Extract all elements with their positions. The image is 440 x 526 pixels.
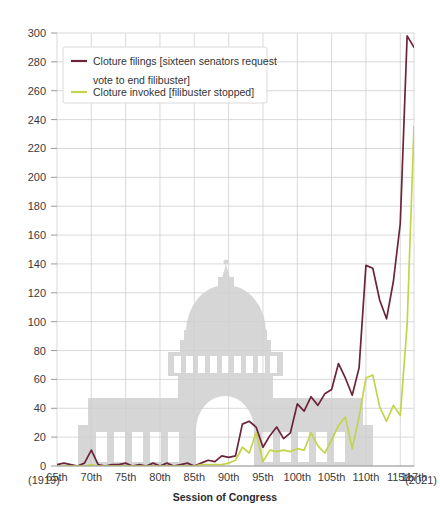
chart-container: 0204060801001201401601802002202402602803… <box>0 0 440 526</box>
legend-label-cloture-filings-line1: Cloture filings [sixteen senators reques… <box>93 55 277 67</box>
x-tick-label: 80th <box>149 471 170 483</box>
capitol-building-watermark <box>78 259 373 466</box>
y-tick-label: 180 <box>28 200 46 212</box>
y-tick-label: 260 <box>28 85 46 97</box>
y-axis-ticks: 0204060801001201401601802002202402602803… <box>28 27 57 472</box>
y-tick-label: 280 <box>28 56 46 68</box>
legend-label-cloture-filings-line2: vote to end filibuster] <box>93 74 190 86</box>
y-tick-label: 140 <box>28 258 46 270</box>
y-tick-label: 20 <box>34 431 46 443</box>
x-axis-ticks: 65th70th75th80th85th90th95th100th105th11… <box>46 471 427 483</box>
y-tick-label: 200 <box>28 171 46 183</box>
x-tick-label: 105th <box>318 471 346 483</box>
y-tick-label: 160 <box>28 229 46 241</box>
y-tick-label: 40 <box>34 402 46 414</box>
y-tick-label: 300 <box>28 27 46 39</box>
x-tick-label: 90th <box>218 471 239 483</box>
x-tick-label: 70th <box>81 471 102 483</box>
y-tick-label: 100 <box>28 316 46 328</box>
y-tick-label: 0 <box>40 460 46 472</box>
x-axis-end-year: (2021) <box>405 474 437 486</box>
y-tick-label: 80 <box>34 345 46 357</box>
x-tick-label: 85th <box>184 471 205 483</box>
x-axis-start-year: (1919) <box>28 474 60 486</box>
y-tick-label: 240 <box>28 114 46 126</box>
x-axis-title: Session of Congress <box>173 491 278 503</box>
x-tick-label: 100th <box>284 471 312 483</box>
chart-legend: Cloture filings [sixteen senators reques… <box>63 47 277 103</box>
x-tick-label: 110th <box>353 471 380 483</box>
legend-label-cloture-invoked-line1: Cloture invoked [filibuster stopped] <box>93 86 254 98</box>
y-tick-label: 120 <box>28 287 46 299</box>
y-tick-label: 220 <box>28 142 46 154</box>
y-tick-label: 60 <box>34 373 46 385</box>
line-chart: 0204060801001201401601802002202402602803… <box>0 0 440 526</box>
x-tick-label: 95th <box>252 471 273 483</box>
x-tick-label: 75th <box>115 471 136 483</box>
